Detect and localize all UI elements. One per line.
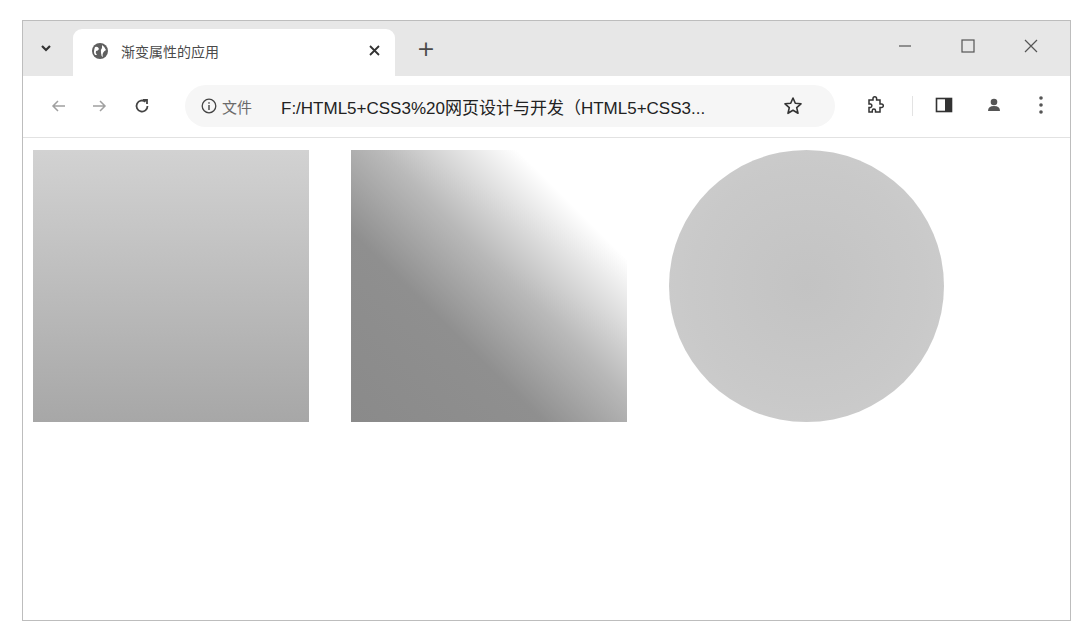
profile-icon	[985, 96, 1003, 114]
reload-button[interactable]	[128, 92, 156, 120]
browser-window: 渐变属性的应用 + 文件 F:/HTML5+C	[22, 20, 1071, 621]
close-icon	[1024, 39, 1038, 53]
side-panel-icon	[935, 96, 953, 114]
active-tab[interactable]: 渐变属性的应用	[73, 29, 395, 76]
new-tab-button[interactable]: +	[413, 35, 439, 61]
linear-gradient-square	[33, 150, 309, 422]
globe-icon	[91, 42, 109, 60]
diagonal-gradient-square	[351, 150, 627, 422]
close-window-button[interactable]	[1011, 31, 1051, 61]
bookmark-button[interactable]	[780, 93, 806, 119]
address-bar[interactable]: 文件 F:/HTML5+CSS3%20网页设计与开发（HTML5+CSS3...	[185, 85, 835, 127]
maximize-button[interactable]	[948, 31, 988, 61]
kebab-menu-icon	[1038, 95, 1044, 115]
tab-search-button[interactable]	[33, 35, 59, 61]
puzzle-icon	[865, 95, 885, 115]
toolbar-divider	[912, 96, 913, 116]
title-bar: 渐变属性的应用 +	[23, 21, 1070, 76]
extensions-button[interactable]	[860, 90, 890, 120]
close-icon	[369, 45, 380, 56]
url-text[interactable]: F:/HTML5+CSS3%20网页设计与开发（HTML5+CSS3...	[281, 94, 705, 119]
tab-close-button[interactable]	[363, 39, 385, 61]
maximize-icon	[961, 39, 975, 53]
forward-arrow-icon	[91, 98, 107, 114]
info-icon[interactable]	[201, 98, 217, 114]
reload-icon	[133, 97, 151, 115]
minimize-button[interactable]	[885, 31, 925, 61]
chevron-down-icon	[40, 42, 52, 54]
back-button[interactable]	[45, 92, 73, 120]
star-icon	[783, 96, 803, 116]
radial-gradient-circle	[669, 150, 944, 422]
file-scheme-label: 文件	[222, 96, 252, 117]
forward-button[interactable]	[85, 92, 113, 120]
plus-icon: +	[417, 36, 435, 61]
minimize-icon	[898, 39, 912, 53]
side-panel-button[interactable]	[929, 90, 959, 120]
tab-title: 渐变属性的应用	[121, 41, 219, 61]
page-content	[23, 138, 1070, 620]
back-arrow-icon	[51, 98, 67, 114]
toolbar: 文件 F:/HTML5+CSS3%20网页设计与开发（HTML5+CSS3...	[23, 76, 1070, 138]
menu-button[interactable]	[1026, 90, 1056, 120]
profile-button[interactable]	[979, 90, 1009, 120]
